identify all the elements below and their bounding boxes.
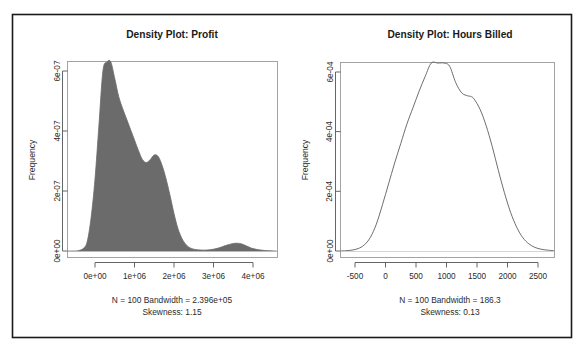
hours-xtick-label-3: 1000 bbox=[437, 272, 456, 281]
profit-ytick-label-3: 6e-07 bbox=[53, 60, 62, 81]
hours-ytick-label-0: 0e+00 bbox=[326, 239, 335, 262]
profit-ytick-label-0: 0e+00 bbox=[53, 239, 62, 262]
hours-xtick-label-6: 2500 bbox=[529, 272, 548, 281]
profit-xtick-label-2: 2e+06 bbox=[163, 272, 186, 281]
profit-ytick-label-2: 4e-07 bbox=[53, 120, 62, 141]
profit-xtick-label-0: 0e+00 bbox=[84, 272, 107, 281]
profit-xtick-label-1: 1e+06 bbox=[123, 272, 146, 281]
profit-ytick-label-1: 2e-07 bbox=[53, 180, 62, 201]
panel-profit-title: Density Plot: Profit bbox=[126, 29, 218, 40]
profit-ylabel: Frequency bbox=[27, 139, 37, 180]
hours-xtick-label-1: 0 bbox=[383, 272, 388, 281]
profit-xtick-label-4: 4e+06 bbox=[242, 272, 265, 281]
profit-caption-line1: N = 100 Bandwidth = 2.396e+05 bbox=[112, 295, 233, 305]
profit-xtick-label-3: 3e+06 bbox=[202, 272, 225, 281]
hours-xtick-label-0: -500 bbox=[347, 272, 364, 281]
density-plots-figure: Density Plot: Profit 0e+00 2e-07 bbox=[0, 0, 584, 354]
hours-caption-line2: Skewness: 0.13 bbox=[420, 307, 479, 317]
hours-ytick-label-3: 6e-04 bbox=[326, 61, 335, 82]
hours-xtick-label-4: 1500 bbox=[468, 272, 487, 281]
figure-canvas: Density Plot: Profit 0e+00 2e-07 bbox=[0, 0, 584, 354]
hours-ytick-label-2: 4e-04 bbox=[326, 121, 335, 142]
profit-caption-line2: Skewness: 1.15 bbox=[142, 307, 201, 317]
hours-caption-line1: N = 100 Bandwidth = 186.3 bbox=[399, 295, 501, 305]
hours-xtick-label-2: 500 bbox=[409, 272, 423, 281]
hours-ytick-label-1: 2e-04 bbox=[326, 180, 335, 201]
hours-ylabel: Frequency bbox=[300, 139, 310, 180]
hours-xtick-label-5: 2000 bbox=[498, 272, 517, 281]
panel-hours-billed-title: Density Plot: Hours Billed bbox=[387, 29, 512, 40]
